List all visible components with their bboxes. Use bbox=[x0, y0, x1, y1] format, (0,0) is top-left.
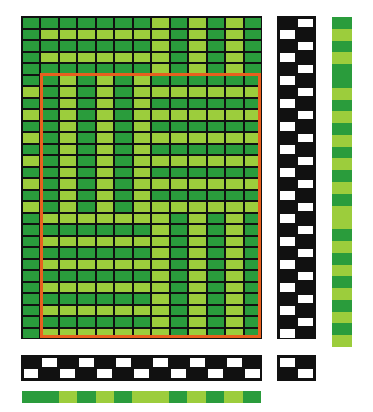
drawdown-cell bbox=[189, 329, 205, 339]
drawdown-cell bbox=[115, 156, 131, 166]
drawdown-cell bbox=[134, 191, 150, 201]
drawdown-cell bbox=[189, 248, 205, 258]
drawdown-cell bbox=[23, 156, 39, 166]
treadling-cell bbox=[280, 99, 295, 108]
drawdown-cell bbox=[97, 41, 113, 51]
drawdown-cell bbox=[134, 99, 150, 109]
drawdown-cell bbox=[60, 110, 76, 120]
drawdown-cell bbox=[189, 18, 205, 28]
drawdown-cell bbox=[152, 145, 168, 155]
drawdown-cell bbox=[115, 225, 131, 235]
warp-color-cell bbox=[169, 391, 188, 403]
drawdown-cell bbox=[171, 53, 187, 63]
drawdown-cell bbox=[134, 133, 150, 143]
drawdown-cell bbox=[189, 214, 205, 224]
threading-cell bbox=[245, 369, 260, 378]
tieup-cell bbox=[280, 358, 295, 367]
threading-grid bbox=[21, 355, 262, 381]
drawdown-cell bbox=[152, 294, 168, 304]
drawdown-cell bbox=[171, 110, 187, 120]
drawdown-cell bbox=[115, 87, 131, 97]
drawdown-cell bbox=[23, 168, 39, 178]
warp-color-cell bbox=[40, 391, 59, 403]
warp-color-cell bbox=[187, 391, 206, 403]
drawdown-cell bbox=[171, 156, 187, 166]
drawdown-cell bbox=[189, 41, 205, 51]
drawdown-cell bbox=[60, 271, 76, 281]
drawdown-cell bbox=[97, 145, 113, 155]
drawdown-cell bbox=[171, 145, 187, 155]
drawdown-cell bbox=[134, 18, 150, 28]
threading-cell bbox=[97, 369, 112, 378]
drawdown-cell bbox=[171, 237, 187, 247]
drawdown-cell bbox=[60, 225, 76, 235]
weft-color-cell bbox=[332, 323, 352, 335]
drawdown-cell bbox=[208, 248, 224, 258]
weft-color-stripe bbox=[332, 17, 352, 347]
drawdown-cell bbox=[97, 294, 113, 304]
drawdown-cell bbox=[115, 30, 131, 40]
drawdown-cell bbox=[171, 225, 187, 235]
drawdown-cell bbox=[171, 260, 187, 270]
drawdown-cell bbox=[97, 306, 113, 316]
drawdown-cell bbox=[41, 202, 57, 212]
drawdown-cell bbox=[208, 133, 224, 143]
drawdown-cell bbox=[226, 248, 242, 258]
drawdown-cell bbox=[60, 30, 76, 40]
drawdown-cell bbox=[171, 179, 187, 189]
drawdown-cell bbox=[189, 76, 205, 86]
drawdown-cell bbox=[208, 110, 224, 120]
warp-color-cell bbox=[77, 391, 96, 403]
drawdown-cell bbox=[115, 53, 131, 63]
treadling-cell bbox=[280, 168, 295, 177]
drawdown-cell bbox=[226, 260, 242, 270]
drawdown-cell bbox=[171, 202, 187, 212]
drawdown-cell bbox=[226, 64, 242, 74]
weft-color-cell bbox=[332, 64, 352, 76]
drawdown-cell bbox=[78, 294, 94, 304]
drawdown-cell bbox=[245, 214, 261, 224]
drawdown-cell bbox=[41, 110, 57, 120]
drawdown-cell bbox=[115, 110, 131, 120]
drawdown-cell bbox=[226, 283, 242, 293]
drawdown-cell bbox=[226, 76, 242, 86]
drawdown-cell bbox=[226, 156, 242, 166]
drawdown-cell bbox=[152, 110, 168, 120]
drawdown-cell bbox=[115, 271, 131, 281]
drawdown-cell bbox=[189, 156, 205, 166]
drawdown-cell bbox=[189, 317, 205, 327]
threading-cell bbox=[79, 358, 94, 367]
drawdown-cell bbox=[245, 156, 261, 166]
drawdown-cell bbox=[115, 317, 131, 327]
drawdown-cell bbox=[226, 271, 242, 281]
drawdown-cell bbox=[41, 329, 57, 339]
drawdown-cell bbox=[134, 260, 150, 270]
drawdown-cell bbox=[97, 18, 113, 28]
drawdown-cell bbox=[245, 110, 261, 120]
drawdown-cell bbox=[189, 202, 205, 212]
drawdown-cell bbox=[208, 306, 224, 316]
drawdown-cell bbox=[208, 202, 224, 212]
warp-color-cell bbox=[132, 391, 151, 403]
drawdown-cell bbox=[23, 110, 39, 120]
drawdown-cell bbox=[152, 237, 168, 247]
drawdown-cell bbox=[208, 329, 224, 339]
drawdown-cell bbox=[152, 64, 168, 74]
drawdown-cell bbox=[23, 306, 39, 316]
drawdown-cell bbox=[134, 110, 150, 120]
treadling-grid bbox=[277, 16, 316, 339]
weft-color-cell bbox=[332, 206, 352, 218]
drawdown-cell bbox=[78, 41, 94, 51]
drawdown-cell bbox=[134, 87, 150, 97]
drawdown-cell bbox=[60, 329, 76, 339]
drawdown-cell bbox=[41, 283, 57, 293]
drawdown-cell bbox=[171, 248, 187, 258]
drawdown-cell bbox=[41, 145, 57, 155]
drawdown-cell bbox=[23, 145, 39, 155]
drawdown-cell bbox=[78, 260, 94, 270]
threading-cell bbox=[24, 369, 39, 378]
drawdown-cell bbox=[23, 191, 39, 201]
treadling-cell bbox=[280, 214, 295, 223]
threading-cell bbox=[190, 358, 205, 367]
drawdown-cell bbox=[208, 237, 224, 247]
